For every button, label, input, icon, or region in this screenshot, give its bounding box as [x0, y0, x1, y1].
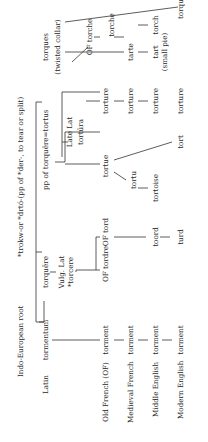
- mode-torment: torment: [177, 325, 184, 354]
- mode-torch: torch: [152, 15, 159, 34]
- row-label-middle-english: Middle English: [152, 362, 159, 417]
- etymology-tree-diagram: Indo-European root Latin Old French (OF)…: [0, 0, 208, 442]
- word-tortura: tortūra: [77, 119, 84, 145]
- of-tordre: OF tordre: [102, 246, 109, 282]
- mode-tart-gloss: (small pie): [161, 33, 168, 71]
- word-vulg-torcere: *torcere: [67, 257, 74, 287]
- me-torment: torment: [152, 325, 159, 354]
- mode-torque: torque: [177, 0, 184, 19]
- mode-torture: torture: [177, 88, 184, 114]
- mf-torture: torture: [127, 88, 134, 114]
- mode-tort: tort: [177, 135, 184, 149]
- row-label-medieval-french: Medieval French: [127, 361, 134, 423]
- mf-torche: torche: [108, 13, 115, 37]
- of-torture: torture: [102, 88, 109, 114]
- row-label-latin: Latin: [42, 375, 49, 394]
- word-pp-tortus: pp of torquēre=tortus: [42, 110, 49, 190]
- of-torment: torment: [102, 325, 109, 354]
- mf-tarte: tarte: [127, 43, 134, 61]
- me-tortu: tortu: [130, 171, 137, 189]
- of-tortue: tortue: [102, 155, 109, 177]
- row-label-indo-european: Indo-European root: [17, 306, 24, 378]
- word-torques-gloss: (twisted collar): [54, 19, 61, 74]
- mode-tart: tart: [152, 45, 159, 59]
- mode-turd: turd: [177, 229, 184, 245]
- me-toord: toord: [152, 227, 159, 247]
- of-torche: OF torche: [86, 19, 93, 56]
- mf-torment: torment: [127, 325, 134, 354]
- row-label-old-french: Old French (OF): [102, 362, 109, 422]
- word-torquere: torquēre: [42, 256, 49, 288]
- word-torques: torques: [42, 33, 49, 61]
- row-label-modern-english: Modern English: [177, 361, 184, 419]
- me-torture: torture: [152, 88, 159, 114]
- mode-tortoise: tortoise: [152, 174, 159, 202]
- word-tormentum: tormentum: [42, 320, 49, 361]
- word-vulg-lat: Vulg. Lat: [58, 256, 65, 289]
- of-tord: OF tord: [102, 218, 109, 246]
- word-late-lat: Late Lat: [66, 117, 73, 147]
- ie-root-form: *trokw-or *drtó-(pp of *der-, to tear or…: [17, 97, 24, 257]
